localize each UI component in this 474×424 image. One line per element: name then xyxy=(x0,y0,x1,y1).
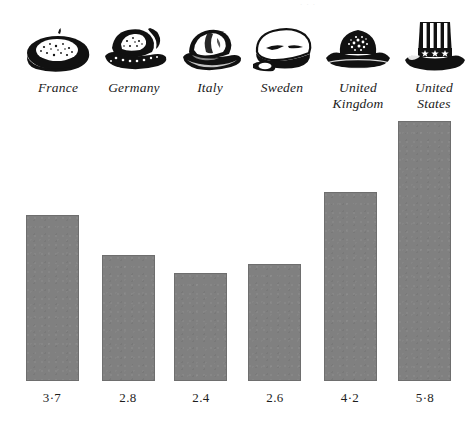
bar-italy xyxy=(174,273,227,381)
value-label-sweden: 2.6 xyxy=(235,390,315,406)
bar-sweden xyxy=(248,264,301,381)
value-label-france: 3·7 xyxy=(12,390,92,406)
value-label-germany: 2.8 xyxy=(88,390,168,406)
bar-france xyxy=(26,215,79,381)
value-label-united-kingdom: 4·2 xyxy=(310,390,390,406)
bar-germany xyxy=(102,255,155,381)
value-label-united-states: 5·8 xyxy=(385,390,465,406)
value-label-italy: 2.4 xyxy=(161,390,241,406)
bar-united-kingdom xyxy=(324,192,377,381)
plot-area xyxy=(0,0,474,424)
bar-united-states xyxy=(398,121,451,381)
bar-chart-figure: · · · xyxy=(0,0,474,424)
